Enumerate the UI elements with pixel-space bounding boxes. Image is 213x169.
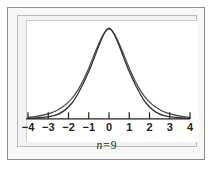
x-tick-label-minus-1: −1: [81, 121, 97, 134]
sample-size-caption: n = 9: [0, 138, 213, 152]
x-tick-label-minus-2: −2: [61, 121, 77, 134]
x-tick-label-minus-4: −4: [20, 121, 36, 134]
x-tick-label-4: 4: [182, 121, 198, 134]
x-tick-label-0: 0: [101, 121, 117, 134]
caption-value: 9: [111, 139, 117, 151]
x-tick-label-minus-3: −3: [40, 121, 56, 134]
t-distribution-curve: [28, 29, 190, 117]
figure-root: −4 −3 −2 −1 0 1 2 3 4 n = 9: [0, 0, 213, 169]
normal-distribution-curve: [28, 28, 190, 118]
x-tick-label-1: 1: [121, 121, 137, 134]
x-tick-label-2: 2: [142, 121, 158, 134]
x-tick-label-3: 3: [162, 121, 178, 134]
